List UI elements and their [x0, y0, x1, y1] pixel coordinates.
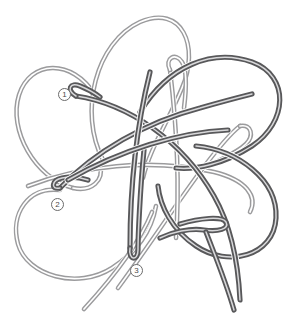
callout-marker-2: 2 [51, 198, 64, 211]
callout-marker-1: 1 [58, 88, 71, 101]
knot-diagram-figure: 1 2 3 [0, 0, 299, 313]
knot-illustration [0, 0, 299, 313]
callout-marker-3: 3 [130, 264, 143, 277]
